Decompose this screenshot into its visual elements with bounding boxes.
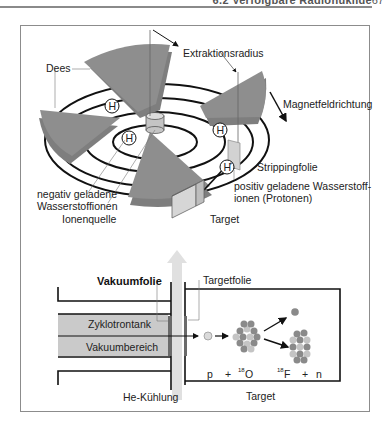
svg-text:−: − bbox=[131, 131, 135, 137]
label-vacuum-foil: Vakuumfolie bbox=[97, 275, 162, 287]
target-schematic: p + 18 O 18 F + n Vakuumfolie Targetfoli… bbox=[58, 250, 340, 403]
svg-text:n: n bbox=[316, 368, 322, 380]
label-positive-ions-1: positiv geladene Wasserstoff- bbox=[234, 180, 372, 192]
cyclotron-diagram: H − H − H − H + Extraktionsradius Dees M bbox=[37, 30, 372, 225]
label-negative-ions-1: negativ geladene bbox=[37, 188, 117, 200]
oxygen-18-nucleus bbox=[233, 321, 261, 353]
svg-text:+: + bbox=[302, 368, 308, 380]
svg-text:−: − bbox=[222, 123, 226, 129]
he-cooling-arrow-head bbox=[167, 250, 187, 263]
label-negative-ions-2: Wasserstoffionen bbox=[37, 200, 118, 212]
h-plus-marker: H + bbox=[220, 160, 234, 174]
reaction-equation: p + 18 O 18 F + n bbox=[207, 367, 322, 380]
label-stripping-foil: Strippingfolie bbox=[257, 161, 318, 173]
svg-text:O: O bbox=[245, 368, 253, 380]
cyclotron-figure: H − H − H − H + Extraktionsradius Dees M bbox=[0, 0, 388, 426]
label-target-foil: Targetfolie bbox=[203, 274, 252, 286]
label-target-bottom: Target bbox=[246, 390, 275, 402]
label-ion-source: Ionenquelle bbox=[62, 213, 116, 225]
label-magnetic-field: Magnetfeldrichtung bbox=[283, 98, 372, 110]
fluorine-18-nucleus bbox=[290, 330, 311, 364]
svg-text:+: + bbox=[225, 368, 231, 380]
label-cyclotron-tank: Zyklotrontank bbox=[88, 318, 152, 330]
he-cooling-band bbox=[172, 262, 182, 400]
label-he-cooling: He-Kühlung bbox=[123, 391, 179, 403]
label-vacuum-region: Vakuumbereich bbox=[86, 341, 158, 353]
proton-particle bbox=[204, 332, 212, 340]
label-dees: Dees bbox=[46, 62, 71, 74]
svg-text:p: p bbox=[207, 368, 213, 380]
pointer-arrow bbox=[153, 30, 178, 46]
svg-text:F: F bbox=[284, 368, 290, 380]
neutron-particle bbox=[291, 308, 299, 316]
label-positive-ions-2: ionen (Protonen) bbox=[234, 192, 312, 204]
svg-text:−: − bbox=[114, 99, 118, 105]
label-extraction-radius: Extraktionsradius bbox=[183, 47, 264, 59]
label-target-top: Target bbox=[210, 213, 239, 225]
svg-text:+: + bbox=[229, 160, 233, 166]
